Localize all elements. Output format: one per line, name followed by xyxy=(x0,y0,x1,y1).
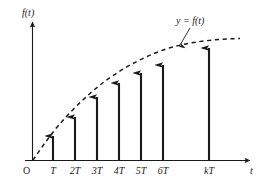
curve-equation-label: y = f(t) xyxy=(176,16,204,26)
y-axis-label: f(t) xyxy=(22,8,34,18)
annotation-leader-line xyxy=(180,28,190,45)
x-axis-label: t xyxy=(250,166,253,176)
x-tick-label-T: T xyxy=(43,166,63,176)
x-tick-label-2T: 2T xyxy=(65,166,85,176)
impulse-arrow-group xyxy=(53,48,209,160)
x-tick-label-3T: 3T xyxy=(87,166,107,176)
x-tick-label-6T: 6T xyxy=(153,166,173,176)
x-tick-label-5T: 5T xyxy=(131,166,151,176)
origin-label: O xyxy=(23,166,30,176)
impulse-sampling-plot xyxy=(0,0,266,182)
x-tick-label-kT: kT xyxy=(199,166,219,176)
x-tick-label-4T: 4T xyxy=(109,166,129,176)
figure-canvas: f(t) t O y = f(t) T 2T 3T 4T 5T 6T kT xyxy=(0,0,266,182)
